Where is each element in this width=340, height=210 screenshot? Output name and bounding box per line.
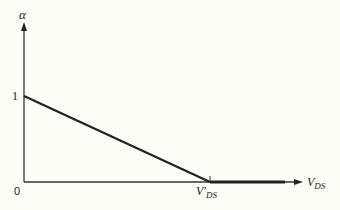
y-axis-label: α	[19, 8, 26, 21]
vds-prime-label: V′DS	[196, 185, 217, 200]
vds-prime-sub: DS	[206, 190, 217, 200]
x-axis-label-sub: DS	[314, 181, 325, 191]
diagram-canvas	[0, 0, 340, 210]
alpha-decreasing-line	[24, 96, 210, 182]
y-intercept-label: 1	[12, 90, 18, 102]
y-axis-arrow-icon	[21, 22, 27, 31]
x-axis-arrow-icon	[294, 179, 303, 185]
x-axis-label: VDS	[307, 176, 325, 191]
origin-label: 0	[14, 186, 20, 197]
